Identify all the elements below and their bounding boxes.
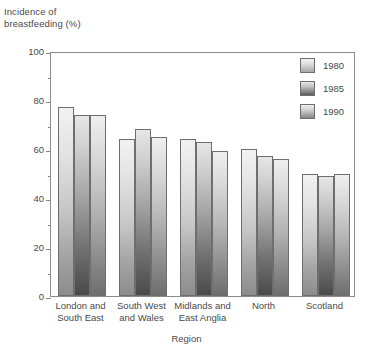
- y-tick-label: 80: [33, 95, 44, 106]
- x-axis-label: North: [233, 300, 294, 312]
- y-tick-label: 40: [33, 193, 44, 204]
- bar: [196, 142, 212, 296]
- legend-swatch-icon: [300, 58, 315, 73]
- bar: [74, 115, 90, 296]
- bar: [58, 107, 74, 296]
- bar: [241, 149, 257, 296]
- legend-label: 1985: [323, 83, 344, 94]
- bar: [135, 129, 151, 296]
- legend: 198019851990: [300, 56, 370, 125]
- x-axis-labels: London and South EastSouth West and Wale…: [50, 300, 355, 330]
- y-tick-line: [46, 298, 51, 299]
- y-tick-label: 60: [33, 144, 44, 155]
- legend-item-1990[interactable]: 1990: [300, 102, 370, 120]
- y-tick-label: 20: [33, 242, 44, 253]
- bar: [257, 156, 273, 296]
- legend-item-1980[interactable]: 1980: [300, 56, 370, 74]
- x-axis-title: Region: [0, 333, 373, 344]
- bar: [151, 137, 167, 296]
- x-axis-label: London and South East: [50, 300, 111, 323]
- x-axis-label: Scotland: [294, 300, 355, 312]
- bar: [90, 115, 106, 296]
- legend-swatch-icon: [300, 104, 315, 119]
- y-tick-label: 0: [39, 291, 44, 302]
- legend-label: 1990: [323, 106, 344, 117]
- bar: [180, 139, 196, 296]
- bar: [273, 159, 289, 296]
- x-axis-label: Midlands and East Anglia: [172, 300, 233, 323]
- bar: [318, 176, 334, 296]
- bar: [119, 139, 135, 296]
- legend-swatch-icon: [300, 81, 315, 96]
- bar: [334, 174, 350, 297]
- bar: [302, 174, 318, 297]
- legend-item-1985[interactable]: 1985: [300, 79, 370, 97]
- bar-chart: Incidence of breastfeeding (%) 020406080…: [0, 0, 373, 353]
- y-axis-title: Incidence of breastfeeding (%): [4, 6, 81, 30]
- x-axis-label: South West and Wales: [111, 300, 172, 323]
- legend-label: 1980: [323, 60, 344, 71]
- bar: [212, 151, 228, 296]
- y-tick-label: 100: [28, 46, 44, 57]
